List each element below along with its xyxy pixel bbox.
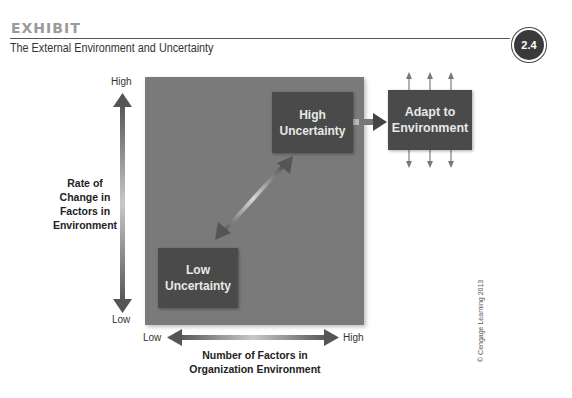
y-axis-title-line: Change in	[52, 190, 118, 204]
x-axis-high-label: High	[343, 332, 364, 343]
high-uncertainty-line2: Uncertainty	[272, 123, 353, 139]
adapt-line2: Environment	[388, 120, 472, 136]
y-axis-high-label: High	[111, 76, 132, 87]
low-uncertainty-box: Low Uncertainty	[158, 248, 238, 308]
x-axis-title: Number of Factors in Organization Enviro…	[170, 348, 340, 376]
x-axis-low-label: Low	[143, 332, 161, 343]
x-axis-title-line: Organization Environment	[170, 362, 340, 376]
y-axis-low-label: Low	[112, 314, 130, 325]
copyright-notice: © Cengage Learning 2013	[477, 280, 484, 362]
x-axis-arrow	[167, 329, 339, 346]
y-axis-title-line: Factors in	[52, 204, 118, 218]
y-axis-title-line: Rate of	[52, 176, 118, 190]
high-uncertainty-box: High Uncertainty	[272, 92, 353, 153]
adapt-to-environment-box: Adapt to Environment	[388, 90, 472, 150]
diagonal-arrow	[215, 156, 293, 240]
to-adapt-arrow	[353, 113, 387, 131]
adapt-line1: Adapt to	[388, 104, 472, 120]
y-axis-title-line: Environment	[52, 218, 118, 232]
x-axis-title-line: Number of Factors in	[170, 348, 340, 362]
y-axis-title: Rate of Change in Factors in Environment	[52, 176, 118, 232]
low-uncertainty-line2: Uncertainty	[158, 278, 238, 294]
high-uncertainty-line1: High	[272, 107, 353, 123]
low-uncertainty-line1: Low	[158, 262, 238, 278]
